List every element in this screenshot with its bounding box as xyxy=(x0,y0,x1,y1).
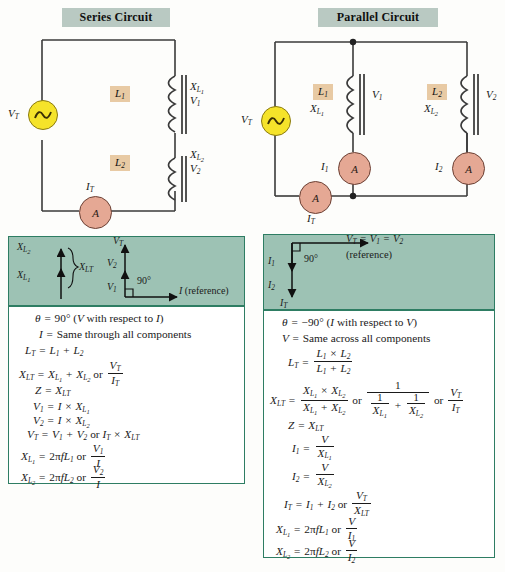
parallel-eq-xlt: XLT = XL1 × XL2 XL1 + XL2 or 1 1XL1 + 1X… xyxy=(270,381,465,423)
parallel-circuit-title: Parallel Circuit xyxy=(318,8,438,27)
parallel-phasor-i1: I1 xyxy=(268,255,275,268)
ac-source-parallel xyxy=(261,106,291,136)
parallel-total-ammeter: A xyxy=(299,181,332,214)
parallel-phasor-reference-note: (reference) xyxy=(346,249,392,260)
series-inductor-2-box: L2 xyxy=(110,155,130,171)
sine-wave-icon xyxy=(29,101,57,129)
series-phasor-xlt: XLT xyxy=(79,261,93,274)
parallel-phasor-svg xyxy=(264,235,496,311)
ac-source-series xyxy=(28,100,58,130)
series-eq-xl2: XL2 = 2πfL2 or V2I xyxy=(21,465,107,492)
parallel-eq-voltage: V = Same across all components xyxy=(282,332,430,344)
parallel-phasor-angle: 90° xyxy=(304,253,318,264)
series-circuit-column: Series Circuit VT xyxy=(0,0,255,572)
series-inductor-1-reactance: XL1 xyxy=(190,80,204,94)
series-phasor-angle: 90° xyxy=(137,275,151,286)
series-eq-v2: V2 = I × XL2 xyxy=(33,414,90,428)
parallel-circuit-schematic xyxy=(255,28,505,223)
series-ammeter: A xyxy=(79,196,112,229)
parallel-eq-i2: I2 = VXL2 xyxy=(292,463,336,492)
sine-wave-icon xyxy=(262,107,290,135)
series-total-current-label: IT xyxy=(86,180,94,194)
parallel-current-1-label: I1 xyxy=(321,160,328,174)
series-circuit-title: Series Circuit xyxy=(62,8,170,27)
parallel-phasor-diagram: I1 I2 IT 90° VT = V1 = V2 (reference) xyxy=(263,234,495,310)
parallel-equation-panel: θ = −90° (I with respect to V) V = Same … xyxy=(263,310,495,558)
series-phasor-axis-label: I (reference) xyxy=(179,285,229,296)
series-equation-panel: θ = 90° (V with respect to I) I = Same t… xyxy=(8,306,245,484)
series-phasor-vt: VT xyxy=(113,235,123,248)
ammeter-symbol: A xyxy=(351,163,358,175)
parallel-eq-xl2: XL2 = 2πfL2 or VI2 xyxy=(276,539,359,566)
series-inductor-1-box: L1 xyxy=(110,86,130,102)
junction-dot-bottom xyxy=(350,193,356,199)
series-source-label: VT xyxy=(8,107,19,121)
parallel-inductor-2-reactance: XL2 xyxy=(424,102,438,116)
parallel-eq-lt: LT = L1 × L2 L1 + L2 xyxy=(288,349,354,378)
parallel-eq-it: IT = I1 + I2 or VTXLT xyxy=(284,491,373,520)
parallel-branch-1-voltage: V1 xyxy=(372,88,382,102)
series-phasor-v1: V1 xyxy=(107,281,117,294)
parallel-inductor-2-box: L2 xyxy=(427,84,447,100)
series-inductor-2-reactance: XL2 xyxy=(190,148,204,162)
series-phasor-v2: V2 xyxy=(107,257,117,270)
parallel-phasor-i2: I2 xyxy=(268,279,275,292)
series-eq-current: I = Same through all components xyxy=(39,328,191,340)
series-eq-z: Z = XLT xyxy=(35,384,70,398)
ammeter-symbol: A xyxy=(465,163,472,175)
series-phasor-xl1: XL1 xyxy=(17,269,30,282)
junction-dot-top xyxy=(350,39,356,45)
parallel-phasor-reference-eq: VT = V1 = V2 xyxy=(346,233,403,246)
parallel-ammeter-branch-2: A xyxy=(452,152,485,185)
parallel-eq-i1: I1 = VXL1 xyxy=(292,435,336,464)
parallel-eq-theta: θ = −90° (I with respect to V) xyxy=(282,316,417,328)
parallel-eq-z: Z = XLT xyxy=(288,419,323,433)
parallel-ammeter-branch-1: A xyxy=(338,152,371,185)
series-phasor-xl2: XL2 xyxy=(17,241,30,254)
parallel-inductor-1-box: L1 xyxy=(313,84,333,100)
parallel-inductor-1-reactance: XL1 xyxy=(310,102,324,116)
ammeter-symbol: A xyxy=(92,207,99,219)
parallel-total-current-label: IT xyxy=(307,212,315,226)
series-eq-theta: θ = 90° (V with respect to I) xyxy=(35,312,163,324)
series-eq-lt: LT = L1 + L2 xyxy=(25,344,83,358)
ammeter-symbol: A xyxy=(312,192,319,204)
series-inductor-2-voltage: V2 xyxy=(190,162,200,176)
series-phasor-svg xyxy=(9,237,246,307)
parallel-phasor-it: IT xyxy=(280,297,287,310)
parallel-branch-2-voltage: V2 xyxy=(486,88,496,102)
series-eq-v1: V1 = I × XL1 xyxy=(33,400,90,414)
parallel-current-2-label: I2 xyxy=(435,160,442,174)
parallel-source-label: VT xyxy=(241,113,252,127)
series-eq-vt: VT = V1 + V2 or IT × XLT xyxy=(27,428,139,442)
parallel-circuit-column: Parallel Circuit xyxy=(255,0,505,572)
series-phasor-diagram: XL2 XL1 XLT VT V2 V1 90° I (reference) xyxy=(8,236,245,306)
series-inductor-1-voltage: V1 xyxy=(190,94,200,108)
